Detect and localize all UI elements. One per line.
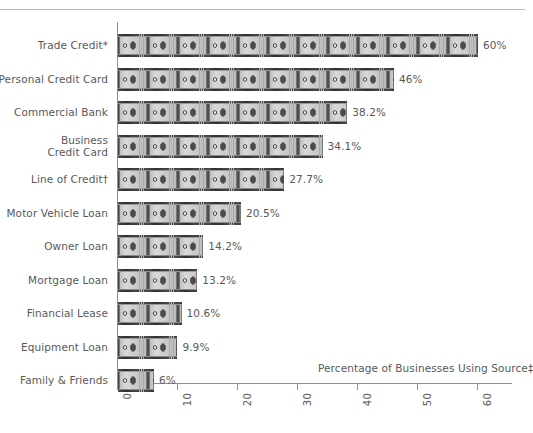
bar-value-label: 27.7% <box>289 173 323 185</box>
chart-row: Commercial Bank38.2% <box>0 101 525 124</box>
money-bar <box>118 68 394 91</box>
money-bar <box>118 101 347 124</box>
chart-row: Owner Loan14.2% <box>0 235 525 258</box>
bar-value-label: 38.2% <box>352 106 386 118</box>
money-bar <box>118 34 478 57</box>
axis-tick <box>357 384 358 390</box>
money-bar <box>118 235 203 258</box>
bar-value-label: 46% <box>399 73 423 85</box>
category-label: Motor Vehicle Loan <box>0 207 108 220</box>
money-bar <box>118 302 182 325</box>
bar-value-label: 34.1% <box>328 140 362 152</box>
axis-tick-label: 30 <box>302 393 313 406</box>
category-label: Commercial Bank <box>0 106 108 119</box>
axis-tick-label: 40 <box>362 393 373 406</box>
axis-tick <box>477 384 478 390</box>
chart-row: Business Credit Card34.1% <box>0 135 525 158</box>
axis-tick <box>237 384 238 390</box>
chart-row: Line of Credit†27.7% <box>0 168 525 191</box>
category-label: Owner Loan <box>0 240 108 253</box>
category-label: Family & Friends <box>0 374 108 387</box>
money-bar <box>118 369 154 392</box>
axis-tick <box>417 384 418 390</box>
bar-value-label: 14.2% <box>208 240 242 252</box>
bar-value-label: 9.9% <box>182 341 209 353</box>
axis-tick-label: 20 <box>242 393 253 406</box>
bar-value-label: 6% <box>159 374 176 386</box>
axis-tick-label: 60 <box>482 393 493 406</box>
category-label: Personal Credit Card <box>0 73 108 86</box>
category-label: Business Credit Card <box>0 134 108 159</box>
bar-value-label: 20.5% <box>246 207 280 219</box>
chart-row: Trade Credit*60% <box>0 34 525 57</box>
chart-row: Mortgage Loan13.2% <box>0 269 525 292</box>
category-label: Trade Credit* <box>0 39 108 52</box>
money-bar <box>118 202 241 225</box>
bar-value-label: 13.2% <box>202 274 236 286</box>
money-bar <box>118 168 284 191</box>
category-label: Line of Credit† <box>0 173 108 186</box>
axis-tick <box>177 384 178 390</box>
bar-value-label: 10.6% <box>187 307 221 319</box>
axis-tick-label: 10 <box>182 393 193 406</box>
chart-row: Financial Lease10.6% <box>0 302 525 325</box>
axis-tick-label: 50 <box>422 393 433 406</box>
money-bar <box>118 269 197 292</box>
chart-row: Equipment Loan9.9% <box>0 336 525 359</box>
bar-value-label: 60% <box>483 39 507 51</box>
axis-tick-label: 0 <box>122 393 133 400</box>
chart-row: Motor Vehicle Loan20.5% <box>0 202 525 225</box>
x-axis-title: Percentage of Businesses Using Source‡ <box>318 362 533 374</box>
chart-row: Personal Credit Card46% <box>0 68 525 91</box>
axis-tick <box>297 384 298 390</box>
money-bar <box>118 336 177 359</box>
category-label: Financial Lease <box>0 307 108 320</box>
category-label: Equipment Loan <box>0 341 108 354</box>
axis-tick <box>117 384 118 390</box>
money-bar <box>118 135 323 158</box>
category-label: Mortgage Loan <box>0 274 108 287</box>
